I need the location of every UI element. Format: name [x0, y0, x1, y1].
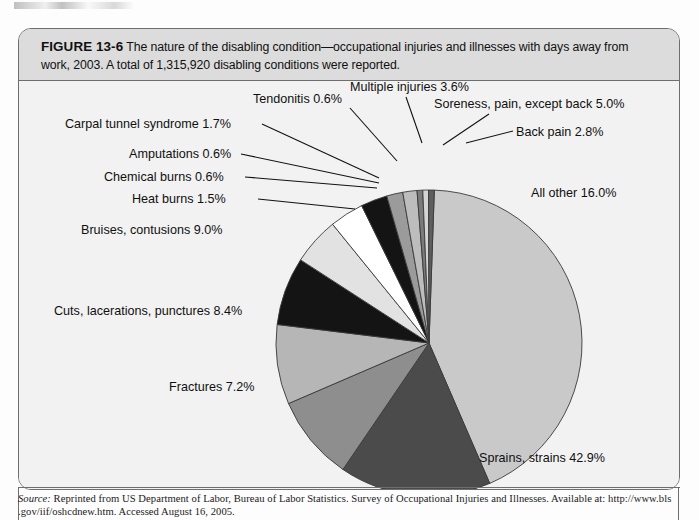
source-text-line2: .gov/iif/oshcdnew.htm. Accessed August 1… — [18, 506, 235, 517]
leader-line-carpal — [262, 124, 379, 178]
leader-line-soreness — [443, 114, 489, 145]
figure-number: FIGURE 13-6 — [41, 39, 123, 54]
pie-slice-label-fractures: Fractures 7.2% — [169, 380, 254, 394]
footer-rule-top — [18, 487, 680, 488]
leader-line-group — [241, 97, 513, 209]
figure-caption-text: FIGURE 13-6 The nature of the disabling … — [41, 38, 657, 74]
source-text: Reprinted from US Department of Labor, B… — [51, 493, 671, 504]
leader-line-multiple — [406, 97, 422, 143]
pie-slice-group — [276, 190, 582, 490]
pie-slice-label-chemical: Chemical burns 0.6% — [104, 170, 224, 184]
source-note: Source: Reprinted from US Department of … — [18, 492, 680, 519]
pie-slice-label-heat: Heat burns 1.5% — [132, 192, 226, 206]
pie-slice-label-soreness: Soreness, pain, except back 5.0% — [434, 97, 624, 111]
pie-slice-label-tendonitis: Tendonitis 0.6% — [253, 92, 342, 106]
source-label: Source: — [18, 493, 51, 504]
leader-line-tendonitis — [350, 108, 397, 161]
scan-artifact — [14, 2, 134, 9]
pie-slice-label-backpain: Back pain 2.8% — [516, 125, 604, 139]
pie-slice-label-sprains: Sprains, strains 42.9% — [479, 451, 605, 465]
leader-line-heat — [258, 199, 355, 209]
pie-slice-label-allother: All other 16.0% — [531, 186, 616, 200]
figure-caption-bar: FIGURE 13-6 The nature of the disabling … — [19, 29, 679, 81]
pie-chart: Carpal tunnel syndrome 1.7%Tendonitis 0.… — [19, 81, 679, 490]
pie-slice-label-carpal: Carpal tunnel syndrome 1.7% — [65, 117, 231, 131]
figure-caption-body: The nature of the disabling condition—oc… — [41, 40, 628, 72]
pie-slice-label-bruises: Bruises, contusions 9.0% — [81, 223, 222, 237]
pie-slice-label-cuts: Cuts, lacerations, punctures 8.4% — [54, 304, 242, 318]
figure-box: FIGURE 13-6 The nature of the disabling … — [18, 28, 680, 490]
pie-slice-label-multiple: Multiple injuries 3.6% — [350, 81, 469, 94]
pie-slice-label-amputations: Amputations 0.6% — [129, 147, 231, 161]
leader-line-backpain — [466, 131, 513, 143]
chart-area: Carpal tunnel syndrome 1.7%Tendonitis 0.… — [19, 81, 679, 489]
